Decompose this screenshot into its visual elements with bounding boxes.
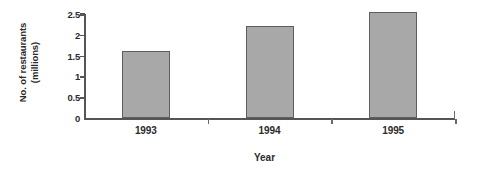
x-axis-tick-mark [208,119,210,124]
y-axis-tick-mark [80,76,84,78]
x-axis-tick-label: 1993 [106,125,186,136]
x-axis-tick-mark [455,119,457,124]
y-axis-tick-mark [80,35,84,37]
bar-chart: No. of restaurants (millions) 00.511.522… [0,0,477,180]
bar-1994 [246,26,294,118]
y-axis-tick-mark [80,97,84,99]
x-axis-tick-label: 1995 [353,125,433,136]
bar-1995 [369,12,417,118]
x-axis-tick-label: 1994 [230,125,310,136]
x-axis-title: Year [0,152,477,163]
y-axis-tick-mark [80,56,84,58]
x-axis-title-label: Year [254,152,275,163]
y-axis-tick-mark [80,14,84,16]
bar-1993 [122,51,170,118]
x-axis-tick-mark [331,119,333,124]
